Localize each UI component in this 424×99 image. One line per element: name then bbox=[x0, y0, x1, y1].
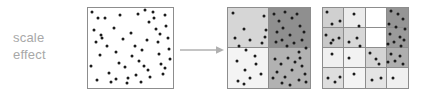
cell-layer-4x4 bbox=[323, 8, 408, 88]
grid-cell bbox=[344, 8, 365, 28]
grid-cell bbox=[344, 28, 365, 48]
panel-raw-points bbox=[87, 7, 174, 89]
data-point bbox=[143, 9, 146, 12]
data-point bbox=[109, 81, 112, 84]
cell-layer-2x2 bbox=[228, 8, 310, 88]
data-point bbox=[141, 49, 144, 52]
scale-effect-figure: scale effect bbox=[0, 0, 424, 99]
data-point bbox=[137, 12, 140, 15]
grid-cell bbox=[387, 8, 408, 28]
data-point bbox=[160, 63, 163, 66]
grid-cell bbox=[323, 8, 344, 28]
grid-cell bbox=[228, 8, 269, 48]
data-point bbox=[94, 40, 97, 43]
panel-grid-4x4 bbox=[322, 7, 409, 89]
data-point bbox=[126, 82, 129, 85]
data-point bbox=[159, 33, 162, 36]
data-point bbox=[163, 14, 166, 17]
data-point bbox=[139, 80, 142, 83]
grid-cell bbox=[366, 68, 387, 88]
data-point bbox=[151, 11, 154, 14]
data-point bbox=[149, 75, 152, 78]
data-point bbox=[145, 39, 148, 42]
data-point bbox=[126, 77, 129, 80]
data-point bbox=[117, 62, 120, 65]
grid-cell bbox=[344, 68, 365, 88]
data-point bbox=[133, 45, 136, 48]
grid-cell bbox=[366, 8, 387, 28]
data-point bbox=[148, 20, 151, 23]
grid-cell bbox=[228, 48, 269, 88]
data-point bbox=[115, 78, 118, 81]
grid-cell bbox=[387, 28, 408, 48]
data-point bbox=[131, 55, 134, 58]
data-point bbox=[164, 67, 167, 70]
data-point bbox=[155, 27, 158, 30]
data-point bbox=[166, 36, 169, 39]
data-point bbox=[165, 24, 168, 27]
panel-grid-2x2 bbox=[227, 7, 311, 89]
data-point bbox=[91, 11, 94, 14]
data-point bbox=[115, 51, 118, 54]
data-point bbox=[169, 58, 172, 61]
data-point bbox=[112, 27, 115, 30]
grid-cell bbox=[269, 48, 310, 88]
grid-cell bbox=[387, 68, 408, 88]
grid-cell bbox=[366, 48, 387, 68]
data-point bbox=[135, 74, 138, 77]
caption-line-2: effect bbox=[13, 46, 81, 63]
data-point bbox=[104, 17, 107, 20]
grid-cell bbox=[323, 68, 344, 88]
data-point bbox=[98, 54, 101, 57]
caption-line-1: scale bbox=[13, 29, 81, 46]
point-layer-raw bbox=[88, 8, 173, 88]
data-point bbox=[124, 66, 127, 69]
grid-cell bbox=[366, 28, 387, 48]
grid-cell bbox=[323, 48, 344, 68]
data-point bbox=[121, 38, 124, 41]
data-point bbox=[95, 79, 98, 82]
data-point bbox=[153, 16, 156, 19]
grid-cell bbox=[323, 28, 344, 48]
data-point bbox=[156, 41, 159, 44]
grid-cell bbox=[269, 8, 310, 48]
data-point bbox=[92, 29, 95, 32]
data-point bbox=[161, 72, 164, 75]
data-point bbox=[143, 64, 146, 67]
grid-cell bbox=[344, 48, 365, 68]
data-point bbox=[158, 52, 161, 55]
data-point bbox=[119, 14, 122, 17]
data-point bbox=[167, 47, 170, 50]
data-point bbox=[99, 34, 102, 37]
data-point bbox=[101, 36, 104, 39]
data-point bbox=[97, 16, 100, 19]
data-point bbox=[129, 31, 132, 34]
rightward-arrow bbox=[180, 42, 224, 54]
data-point bbox=[105, 44, 108, 47]
figure-caption: scale effect bbox=[13, 29, 81, 63]
data-point bbox=[147, 69, 150, 72]
data-point bbox=[90, 65, 93, 68]
data-point bbox=[138, 59, 141, 62]
data-point bbox=[108, 71, 111, 74]
grid-cell bbox=[387, 48, 408, 68]
